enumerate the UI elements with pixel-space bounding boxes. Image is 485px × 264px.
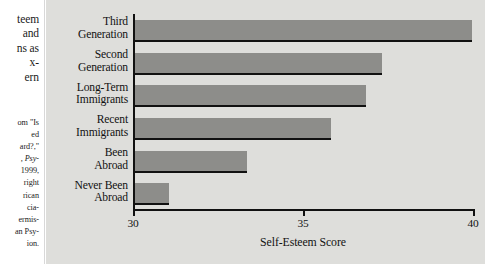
bar [135, 183, 169, 205]
caption-source-text: om "Is ed ard?," , Psy- 1999, right rica… [15, 117, 39, 250]
caption-heading-line: ns as [17, 41, 39, 55]
caption-source-line: 1999, [15, 165, 39, 177]
y-axis-line [133, 14, 135, 210]
category-label: SecondGeneration [44, 49, 128, 74]
category-label: BeenAbroad [44, 147, 128, 172]
caption-heading-line: and [17, 26, 39, 40]
caption-source-line: ed [15, 129, 39, 141]
bar [135, 53, 382, 75]
x-tick [303, 209, 305, 216]
plot-area [133, 14, 473, 210]
bar [135, 20, 472, 42]
category-label: Long-TermImmigrants [44, 82, 128, 107]
category-label-line: Generation [44, 29, 128, 42]
caption-heading-text: teem and ns as x- ern [17, 12, 39, 84]
caption-heading-line: x- [17, 55, 39, 69]
category-axis-labels: ThirdGenerationSecondGenerationLong-Term… [46, 0, 132, 211]
x-tick-label: 40 [453, 217, 485, 229]
category-label: ThirdGeneration [44, 16, 128, 41]
category-label: Never BeenAbroad [44, 180, 128, 205]
x-tick-label: 30 [113, 217, 153, 229]
category-label-line: Abroad [44, 160, 128, 173]
category-label-line: Been [44, 147, 128, 160]
bar [135, 151, 247, 173]
caption-source-line: an Psy- [15, 226, 39, 238]
category-label-line: Generation [44, 62, 128, 75]
caption-source-line: , Psy- [15, 153, 39, 165]
caption-source-line: rican [15, 190, 39, 202]
caption-source-line: right [15, 177, 39, 189]
x-axis-title: Self-Esteem Score [133, 235, 473, 250]
x-tick [133, 209, 135, 216]
x-tick [473, 209, 475, 216]
bar [135, 85, 366, 107]
category-label-line: Immigrants [44, 127, 128, 140]
caption-heading-line: ern [17, 70, 39, 84]
caption-source-line: cia- [15, 202, 39, 214]
category-label-line: Immigrants [44, 94, 128, 107]
caption-heading-line: teem [17, 12, 39, 26]
bar [135, 118, 331, 140]
caption-source-line: ermis- [15, 214, 39, 226]
bar-chart: ThirdGenerationSecondGenerationLong-Term… [46, 0, 485, 264]
caption-source-line: ard?," [15, 141, 39, 153]
caption-source-line: om "Is [15, 117, 39, 129]
category-label-line: Second [44, 49, 128, 62]
category-label-line: Abroad [44, 192, 128, 205]
figure-container: teem and ns as x- ern om "Is ed ard?," ,… [0, 0, 485, 264]
margin-caption-column: teem and ns as x- ern om "Is ed ard?," ,… [0, 0, 42, 264]
caption-source-line: ion. [15, 238, 39, 250]
x-tick-label: 35 [283, 217, 323, 229]
category-label: RecentImmigrants [44, 114, 128, 139]
